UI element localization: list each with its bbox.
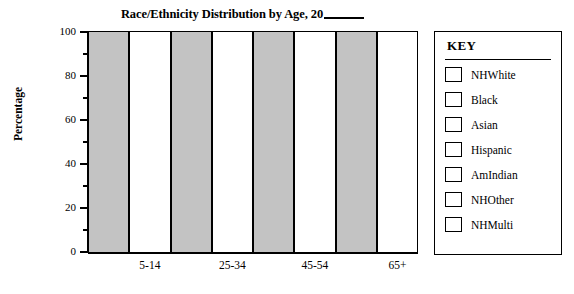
legend-swatch-icon xyxy=(445,167,462,182)
bar-0-4 xyxy=(88,32,129,252)
legend-item-nhother[interactable]: NHOther xyxy=(445,187,557,212)
x-tick-label-5-14: 5-14 xyxy=(110,259,190,271)
legend-title-rule xyxy=(445,59,551,60)
legend-swatch-icon xyxy=(445,67,462,82)
y-tick-label-80: 80 xyxy=(44,70,76,81)
legend-item-black[interactable]: Black xyxy=(445,87,557,112)
legend-item-label: Asian xyxy=(471,119,498,131)
legend-swatch-icon xyxy=(445,92,462,107)
legend-item-nhwhite[interactable]: NHWhite xyxy=(445,62,557,87)
bar-15-24 xyxy=(171,32,212,252)
legend-item-asian[interactable]: Asian xyxy=(445,112,557,137)
y-tick-label-20: 20 xyxy=(44,202,76,213)
chart-title-text: Race/Ethnicity Distribution by Age, 20 xyxy=(121,7,323,21)
chart-panel: Race/Ethnicity Distribution by Age, 20 P… xyxy=(0,0,425,294)
y-tick-label-40: 40 xyxy=(44,158,76,169)
bar-65+ xyxy=(377,32,418,252)
y-tick-label-60: 60 xyxy=(44,114,76,125)
chart-title-blank-line xyxy=(324,6,364,19)
y-tick-label-100: 100 xyxy=(44,26,76,37)
bar-55-64 xyxy=(336,32,377,252)
legend-item-hispanic[interactable]: Hispanic xyxy=(445,137,557,162)
legend-item-label: Hispanic xyxy=(471,144,512,156)
legend-item-label: NHMulti xyxy=(471,219,513,231)
legend-item-label: Black xyxy=(471,94,498,106)
x-tick-label-45-54: 45-54 xyxy=(275,259,355,271)
legend-swatch-icon xyxy=(445,142,462,157)
bar-35-44 xyxy=(253,32,294,252)
x-axis-line xyxy=(88,252,418,254)
bar-5-14 xyxy=(129,32,170,252)
legend-title: KEY xyxy=(447,38,476,54)
plot-area xyxy=(88,32,418,252)
legend-item-label: NHWhite xyxy=(471,69,516,81)
legend-swatch-icon xyxy=(445,192,462,207)
legend-item-label: NHOther xyxy=(471,194,514,206)
legend-swatch-icon xyxy=(445,117,462,132)
chart-title: Race/Ethnicity Distribution by Age, 20 xyxy=(60,6,425,22)
y-axis-title: Percentage xyxy=(12,69,24,159)
legend-item-nhmulti[interactable]: NHMulti xyxy=(445,212,557,237)
legend-items: NHWhiteBlackAsianHispanicAmIndianNHOther… xyxy=(445,62,557,237)
bar-45-54 xyxy=(294,32,335,252)
legend-item-label: AmIndian xyxy=(471,169,518,181)
legend-item-amindian[interactable]: AmIndian xyxy=(445,162,557,187)
y-axis-tick-labels: 020406080100 xyxy=(44,0,76,294)
bar-25-34 xyxy=(212,32,253,252)
y-tick-label-0: 0 xyxy=(44,246,76,257)
legend-swatch-icon xyxy=(445,217,462,232)
legend-key-box: KEY NHWhiteBlackAsianHispanicAmIndianNHO… xyxy=(434,31,562,255)
x-tick-label-25-34: 25-34 xyxy=(192,259,272,271)
x-tick-label-65+: 65+ xyxy=(357,259,437,271)
